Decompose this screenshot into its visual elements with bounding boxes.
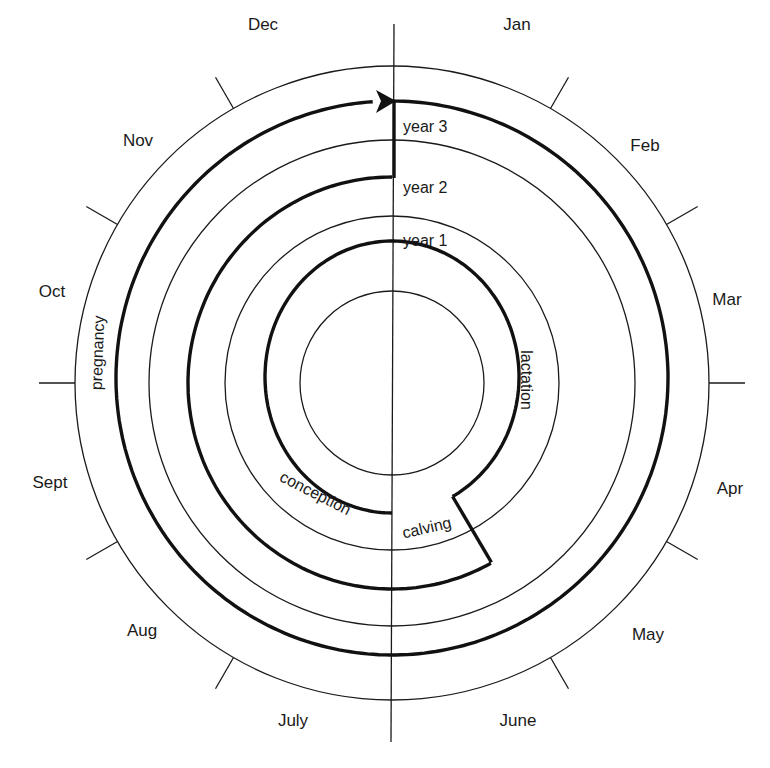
conception-label: conception — [277, 468, 354, 518]
cow-annual-cycle-diagram: Jan Feb Mar Apr May June July Aug Sept O… — [0, 0, 770, 768]
month-label-oct: Oct — [39, 282, 66, 301]
month-label-jan: Jan — [503, 15, 530, 34]
month-tick — [216, 658, 234, 689]
month-label-may: May — [632, 625, 665, 644]
lactation-label: lactation — [518, 350, 535, 410]
year-3-label: year 3 — [403, 118, 448, 135]
month-label-june: June — [500, 711, 537, 730]
year-labels: year 1 year 2 year 3 — [403, 118, 448, 249]
month-label-mar: Mar — [712, 290, 742, 309]
month-tick — [86, 542, 117, 560]
month-label-feb: Feb — [630, 136, 659, 155]
month-label-apr: Apr — [717, 479, 744, 498]
month-tick — [86, 207, 117, 225]
month-tick — [216, 77, 234, 108]
month-labels: Jan Feb Mar Apr May June July Aug Sept O… — [33, 15, 744, 730]
month-label-nov: Nov — [123, 131, 154, 150]
year-1-label: year 1 — [403, 232, 448, 249]
month-tick — [667, 207, 698, 225]
month-tick — [667, 542, 698, 560]
month-label-july: July — [278, 711, 309, 730]
month-tick — [551, 77, 569, 108]
month-tick — [551, 658, 569, 689]
month-label-dec: Dec — [248, 15, 279, 34]
calving-connector — [453, 497, 492, 563]
pregnancy-label: pregnancy — [88, 315, 108, 390]
calving-label: calving — [401, 514, 453, 542]
year-2-label: year 2 — [403, 179, 448, 196]
month-label-aug: Aug — [127, 621, 157, 640]
month-label-sept: Sept — [33, 473, 68, 492]
